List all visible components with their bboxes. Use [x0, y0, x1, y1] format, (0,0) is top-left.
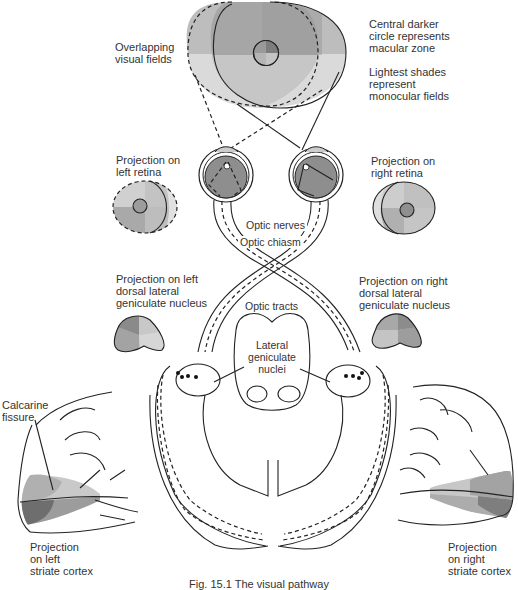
- right-occipital-cortex: [398, 385, 515, 525]
- label-right-dlgn: Projection on right dorsal lateral genic…: [359, 275, 450, 311]
- left-retina-projection: [110, 180, 182, 237]
- label-lateral-geniculate-nuclei: Lateral geniculate nuclei: [236, 339, 308, 375]
- label-optic-chiasm: Optic chiasm: [238, 236, 303, 248]
- right-retina-projection: [370, 180, 440, 238]
- label-lightest-shades: Lightest shades represent monocular fiel…: [369, 66, 449, 102]
- label-calcarine-fissure: Calcarine fissure: [2, 399, 48, 423]
- label-central-darker-circle: Central darker circle represents macular…: [369, 18, 450, 54]
- left-eye: [199, 147, 253, 202]
- label-optic-tracts: Optic tracts: [243, 300, 300, 312]
- right-eye: [289, 147, 343, 202]
- overlapping-visual-fields: [180, 0, 350, 114]
- figure-caption: Fig. 15.1 The visual pathway: [0, 578, 518, 590]
- label-optic-nerves: Optic nerves: [244, 219, 307, 231]
- label-left-striate-cortex: Projection on left striate cortex: [30, 541, 93, 577]
- label-left-dlgn: Projection on left dorsal lateral genicu…: [116, 273, 207, 309]
- left-dlgn-projection: [110, 310, 170, 360]
- label-right-retina: Projection on right retina: [371, 155, 435, 179]
- label-overlapping-visual-fields: Overlapping visual fields: [115, 41, 174, 65]
- label-right-striate-cortex: Projection on right striate cortex: [448, 541, 511, 577]
- right-dlgn-projection: [368, 308, 428, 356]
- label-left-retina: Projection on left retina: [116, 154, 180, 178]
